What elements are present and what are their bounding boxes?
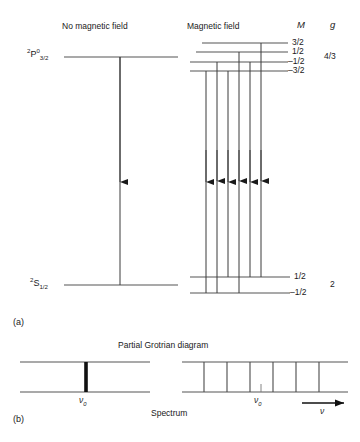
m-label-upper-3: –3/2 bbox=[288, 66, 305, 75]
no-field-level-group bbox=[64, 57, 178, 285]
spectrum-left-nu0-label: ν0 bbox=[79, 396, 86, 407]
g-value-upper: 4/3 bbox=[324, 52, 336, 61]
spectrum-right-baselines bbox=[182, 362, 348, 392]
m-label-upper-1: 1/2 bbox=[292, 47, 304, 56]
nu-subscript-right: 0 bbox=[258, 401, 261, 407]
heading-no-magnetic-field: No magnetic field bbox=[62, 22, 128, 31]
field-transition-group bbox=[206, 43, 261, 293]
frequency-axis-arrowhead bbox=[335, 399, 344, 406]
spectrum-right-line-group bbox=[204, 362, 319, 392]
term-symbol-upper: 2P03/2 bbox=[27, 48, 48, 61]
term-symbol-lower: 2S1/2 bbox=[30, 277, 48, 290]
panel-label-a: (a) bbox=[13, 318, 24, 327]
grotrian-diagram-title: Partial Grotrian diagram bbox=[118, 341, 208, 350]
frequency-axis-label: ν bbox=[320, 407, 324, 416]
column-header-g: g bbox=[330, 20, 335, 30]
panel-label-b: (b) bbox=[13, 415, 24, 424]
nu-subscript-left: 0 bbox=[83, 401, 86, 407]
heading-magnetic-field: Magnetic field bbox=[187, 22, 239, 31]
column-header-M: M bbox=[297, 20, 305, 30]
term-lower-j: 1/2 bbox=[39, 283, 48, 290]
field-arrowhead-group bbox=[206, 150, 261, 182]
g-value-lower: 2 bbox=[330, 280, 335, 289]
field-lower-level-group bbox=[190, 277, 290, 293]
zeeman-grotrian-figure: No magnetic field Magnetic field M g 2P0… bbox=[0, 0, 360, 442]
spectrum-title: Spectrum bbox=[151, 409, 187, 418]
spectrum-right-nu0-label: ν0 bbox=[254, 396, 261, 407]
figure-canvas bbox=[0, 0, 360, 442]
m-label-lower-1: –1/2 bbox=[290, 288, 307, 297]
m-label-lower-0: 1/2 bbox=[294, 272, 306, 281]
term-upper-j: 3/2 bbox=[40, 54, 49, 61]
